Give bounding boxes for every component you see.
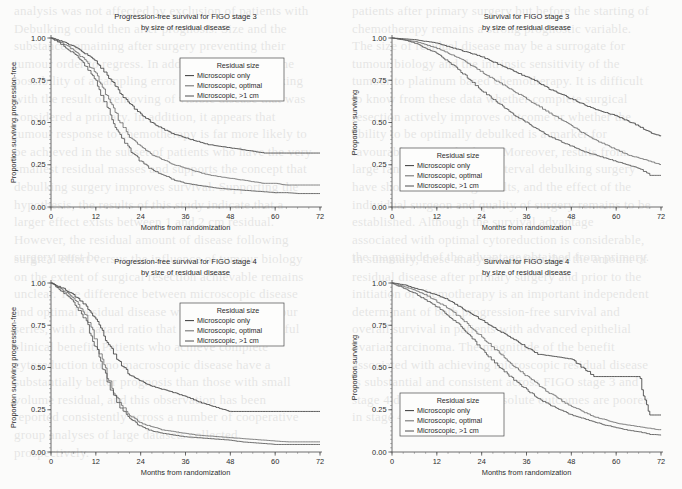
legend: Residual sizeMicroscopic onlyMicroscopic… bbox=[180, 303, 284, 346]
x-axis-label: Months from randomization bbox=[482, 468, 572, 477]
y-axis-tick-label: 1.00 bbox=[31, 34, 45, 43]
panel-pfs-stage4: Progression-free survival for FIGO stage… bbox=[0, 245, 341, 489]
x-axis-tick-label: 24 bbox=[137, 457, 145, 466]
legend-item-label: Microscopic, optimal bbox=[197, 81, 263, 90]
x-axis-tick-label: 72 bbox=[316, 212, 324, 221]
y-axis-label: Proportion surviving bbox=[350, 90, 359, 155]
x-axis-tick-label: 48 bbox=[567, 212, 575, 221]
y-axis-label: Proportion surviving bbox=[350, 335, 359, 400]
x-axis-tick-label: 0 bbox=[49, 212, 53, 221]
x-axis-tick-label: 36 bbox=[522, 212, 530, 221]
chart-os-stage4: Survival for FIGO stage 4by size of resi… bbox=[341, 245, 682, 489]
y-axis-label: Proportion surviving progression-free bbox=[9, 62, 18, 183]
x-axis-label: Months from randomization bbox=[141, 223, 231, 232]
chart-os-stage3: Survival for FIGO stage 3by size of resi… bbox=[341, 0, 682, 245]
panel-pfs-stage3: Progression-free survival for FIGO stage… bbox=[0, 0, 341, 245]
y-axis-label: Proportion surviving progression-free bbox=[9, 307, 18, 428]
y-axis-tick-label: 0.50 bbox=[31, 363, 45, 372]
legend-title: Residual size bbox=[437, 151, 480, 160]
legend-item-label: Microscopic, >1 cm bbox=[417, 181, 479, 190]
y-axis-tick-label: 1.00 bbox=[31, 279, 45, 288]
chart-title-line1: Survival for FIGO stage 3 bbox=[484, 12, 570, 21]
legend-item-label: Microscopic, >1 cm bbox=[197, 336, 259, 345]
legend-title: Residual size bbox=[437, 396, 480, 405]
y-axis-tick-label: 0.25 bbox=[372, 160, 386, 169]
legend: Residual sizeMicroscopic onlyMicroscopic… bbox=[180, 58, 284, 101]
chart-title-line1: Progression-free survival for FIGO stage… bbox=[114, 257, 257, 266]
x-axis-tick-label: 60 bbox=[612, 212, 620, 221]
chart-title-line1: Progression-free survival for FIGO stage… bbox=[114, 12, 257, 21]
y-axis-tick-label: 0.25 bbox=[31, 160, 45, 169]
y-axis-tick-label: 0.00 bbox=[31, 448, 45, 457]
x-axis-tick-label: 72 bbox=[657, 457, 665, 466]
x-axis-tick-label: 12 bbox=[92, 457, 100, 466]
x-axis-tick-label: 36 bbox=[181, 212, 189, 221]
legend-item-label: Microscopic, >1 cm bbox=[417, 426, 479, 435]
legend-item-label: Microscopic, optimal bbox=[417, 416, 483, 425]
y-axis-tick-label: 0.00 bbox=[31, 203, 45, 212]
panel-os-stage3: Survival for FIGO stage 3by size of resi… bbox=[341, 0, 682, 245]
survival-curve-1 bbox=[51, 283, 320, 411]
x-axis-tick-label: 36 bbox=[522, 457, 530, 466]
survival-curve-1 bbox=[392, 38, 661, 136]
x-axis-tick-label: 24 bbox=[478, 457, 486, 466]
legend-item-label: Microscopic only bbox=[197, 316, 251, 325]
y-axis-tick-label: 0.25 bbox=[31, 405, 45, 414]
chart-title-line2: by size of residual disease bbox=[141, 23, 230, 32]
legend-title: Residual size bbox=[217, 306, 260, 315]
x-axis-tick-label: 12 bbox=[92, 212, 100, 221]
legend-item-label: Microscopic only bbox=[417, 406, 471, 415]
x-axis-tick-label: 60 bbox=[612, 457, 620, 466]
legend: Residual sizeMicroscopic onlyMicroscopic… bbox=[400, 393, 504, 436]
x-axis-tick-label: 0 bbox=[49, 457, 53, 466]
x-axis-tick-label: 24 bbox=[478, 212, 486, 221]
x-axis-tick-label: 48 bbox=[567, 457, 575, 466]
legend-item-label: Microscopic only bbox=[197, 71, 251, 80]
legend-title: Residual size bbox=[217, 61, 260, 70]
x-axis-tick-label: 48 bbox=[226, 457, 234, 466]
x-axis-label: Months from randomization bbox=[141, 468, 231, 477]
y-axis-tick-label: 0.50 bbox=[31, 118, 45, 127]
y-axis-tick-label: 1.00 bbox=[372, 34, 386, 43]
x-axis-tick-label: 48 bbox=[226, 212, 234, 221]
survival-curve-2 bbox=[392, 38, 661, 165]
legend-item-label: Microscopic, optimal bbox=[197, 326, 263, 335]
chart-title-line2: by size of residual disease bbox=[482, 268, 571, 277]
y-axis-tick-label: 0.50 bbox=[372, 118, 386, 127]
legend: Residual sizeMicroscopic onlyMicroscopic… bbox=[400, 148, 504, 191]
legend-item-label: Microscopic, >1 cm bbox=[197, 91, 259, 100]
x-axis-tick-label: 24 bbox=[137, 212, 145, 221]
figure-four-panel-survival-curves: Progression-free survival for FIGO stage… bbox=[0, 0, 682, 489]
y-axis-tick-label: 0.75 bbox=[31, 321, 45, 330]
y-axis-tick-label: 0.75 bbox=[31, 76, 45, 85]
y-axis-tick-label: 0.75 bbox=[372, 321, 386, 330]
panel-os-stage4: Survival for FIGO stage 4by size of resi… bbox=[341, 245, 682, 489]
x-axis-tick-label: 0 bbox=[390, 457, 394, 466]
y-axis-tick-label: 1.00 bbox=[372, 279, 386, 288]
chart-pfs-stage4: Progression-free survival for FIGO stage… bbox=[0, 245, 341, 489]
x-axis-tick-label: 12 bbox=[433, 457, 441, 466]
chart-title-line2: by size of residual disease bbox=[482, 23, 571, 32]
x-axis-tick-label: 0 bbox=[390, 212, 394, 221]
y-axis-tick-label: 0.00 bbox=[372, 203, 386, 212]
chart-title-line2: by size of residual disease bbox=[141, 268, 230, 277]
legend-item-label: Microscopic only bbox=[417, 161, 471, 170]
x-axis-tick-label: 36 bbox=[181, 457, 189, 466]
x-axis-tick-label: 72 bbox=[657, 212, 665, 221]
x-axis-label: Months from randomization bbox=[482, 223, 572, 232]
legend-item-label: Microscopic, optimal bbox=[417, 171, 483, 180]
x-axis-tick-label: 12 bbox=[433, 212, 441, 221]
y-axis-tick-label: 0.25 bbox=[372, 405, 386, 414]
x-axis-tick-label: 60 bbox=[271, 212, 279, 221]
chart-pfs-stage3: Progression-free survival for FIGO stage… bbox=[0, 0, 341, 245]
x-axis-tick-label: 60 bbox=[271, 457, 279, 466]
y-axis-tick-label: 0.75 bbox=[372, 76, 386, 85]
chart-title-line1: Survival for FIGO stage 4 bbox=[484, 257, 570, 266]
y-axis-tick-label: 0.50 bbox=[372, 363, 386, 372]
x-axis-tick-label: 72 bbox=[316, 457, 324, 466]
y-axis-tick-label: 0.00 bbox=[372, 448, 386, 457]
